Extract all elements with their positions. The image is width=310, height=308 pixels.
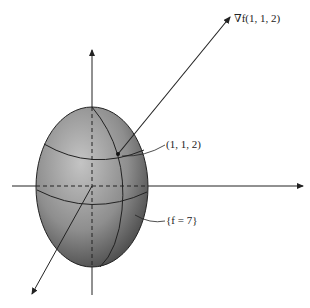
gradient-vector: [118, 17, 230, 154]
point-label: (1, 1, 2): [166, 138, 201, 150]
point-marker: [116, 152, 120, 156]
gradient-label: ∇f(1, 1, 2): [234, 12, 280, 25]
ellipsoid-diagram: [0, 0, 310, 308]
surface-label: {f = 7}: [166, 214, 197, 226]
